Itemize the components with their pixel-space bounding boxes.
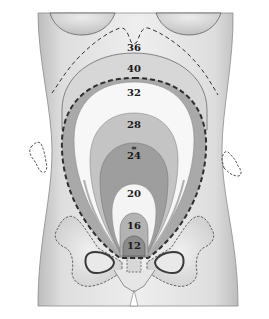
label-week-32: 32	[127, 87, 141, 98]
fundal-height-diagram: 36 40 32 28 24 20 16 12	[0, 0, 269, 319]
label-week-36: 36	[127, 42, 141, 53]
label-week-40: 40	[127, 63, 141, 74]
label-week-12: 12	[127, 240, 141, 251]
label-week-20: 20	[127, 188, 141, 199]
label-week-24: 24	[127, 150, 141, 161]
label-week-28: 28	[127, 119, 141, 130]
label-week-16: 16	[127, 220, 141, 231]
